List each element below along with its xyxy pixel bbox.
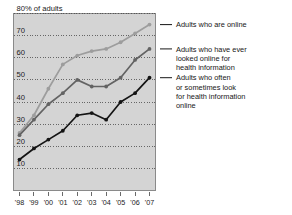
data-point bbox=[90, 111, 94, 115]
x-axis-tick-label: '06 bbox=[130, 198, 139, 207]
x-axis-tick-label: '02 bbox=[73, 198, 82, 207]
x-axis-tick-label: '03 bbox=[87, 198, 96, 207]
data-point bbox=[119, 40, 123, 44]
data-point bbox=[46, 87, 50, 91]
data-point bbox=[46, 102, 50, 106]
legend-label: looked online for bbox=[176, 54, 231, 63]
x-axis-tick-label: '00 bbox=[44, 198, 53, 207]
y-axis-tick-label: 30 bbox=[17, 115, 25, 124]
data-point bbox=[119, 76, 123, 80]
data-point bbox=[75, 54, 79, 58]
legend-label: Adults who have ever bbox=[176, 45, 247, 54]
data-point bbox=[61, 91, 65, 95]
data-point bbox=[32, 113, 36, 117]
data-point bbox=[32, 118, 36, 122]
data-point bbox=[133, 91, 137, 95]
legend-label: Adults who often bbox=[176, 73, 231, 82]
legend-item-2: Adults who have everlooked online forhea… bbox=[160, 45, 247, 72]
x-axis-tick-label: '07 bbox=[145, 198, 154, 207]
y-axis-tick-label: 70 bbox=[17, 26, 25, 35]
data-point bbox=[18, 158, 22, 162]
x-axis-tick-label: '05 bbox=[116, 198, 125, 207]
data-point bbox=[75, 78, 79, 82]
data-point bbox=[148, 47, 152, 51]
y-axis-tick-label: 60 bbox=[17, 48, 25, 57]
data-point bbox=[104, 118, 108, 122]
data-point bbox=[133, 32, 137, 36]
x-axis-tick-label: '01 bbox=[58, 198, 67, 207]
y-axis-top-label: 80% of adults bbox=[17, 4, 63, 13]
data-point bbox=[148, 23, 152, 27]
legend-label: or sometimes look bbox=[176, 83, 236, 92]
health-information-online-line-chart: 80% of adults70605040302010'98'99'00'01'… bbox=[0, 0, 292, 215]
data-point bbox=[119, 100, 123, 104]
data-point bbox=[104, 85, 108, 89]
x-axis-tick-label: '04 bbox=[101, 198, 110, 207]
legend-label: health information bbox=[176, 63, 235, 72]
chart-canvas: 80% of adults70605040302010'98'99'00'01'… bbox=[0, 0, 292, 215]
data-point bbox=[75, 113, 79, 117]
legend-item-3: Adults who oftenor sometimes lookfor hea… bbox=[160, 73, 245, 110]
data-point bbox=[148, 76, 152, 80]
data-point bbox=[61, 62, 65, 66]
legend-label: online bbox=[176, 101, 196, 110]
data-point bbox=[90, 49, 94, 53]
legend-label: for health information bbox=[176, 92, 245, 101]
data-point bbox=[61, 129, 65, 133]
x-axis-tick-label: '98 bbox=[15, 198, 24, 207]
legend-label: Adults who are online bbox=[176, 20, 247, 29]
data-point bbox=[104, 47, 108, 51]
y-axis-tick-label: 50 bbox=[17, 70, 25, 79]
x-axis: '98'99'00'01'02'03'04'05'06'07 bbox=[15, 192, 154, 207]
y-axis-tick-label: 40 bbox=[17, 93, 25, 102]
data-point bbox=[90, 85, 94, 89]
x-axis-tick-label: '99 bbox=[29, 198, 38, 207]
data-point bbox=[32, 147, 36, 151]
data-point bbox=[133, 58, 137, 62]
legend-item-1: Adults who are online bbox=[160, 20, 247, 29]
y-axis-tick-label: 20 bbox=[17, 137, 25, 146]
data-point bbox=[18, 133, 22, 137]
data-point bbox=[46, 138, 50, 142]
